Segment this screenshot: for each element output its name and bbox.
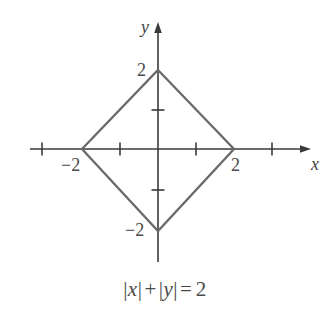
x-axis-name-label: x xyxy=(311,155,319,173)
graph-figure: 2 −2 2 −2 y x |x|+|y|=2 xyxy=(0,0,331,319)
x-tick-label-2: 2 xyxy=(231,156,240,174)
x-axis xyxy=(30,143,311,156)
coordinate-plane xyxy=(0,0,331,319)
y-tick-label-2: 2 xyxy=(137,61,146,79)
right-hand-side-value: 2 xyxy=(194,277,209,301)
variable-y: y xyxy=(163,277,172,301)
equals-operator: = xyxy=(178,277,194,301)
variable-x: x xyxy=(128,277,137,301)
y-axis-name-label: y xyxy=(141,18,149,36)
y-tick-label-negative-2: −2 xyxy=(125,221,144,239)
equation-caption: |x|+|y|=2 xyxy=(0,278,331,301)
x-tick-label-negative-2: −2 xyxy=(61,156,80,174)
plus-operator: + xyxy=(142,277,158,301)
